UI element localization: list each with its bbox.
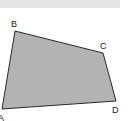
vertex-label-c: C	[100, 41, 107, 51]
vertex-label-d: D	[112, 105, 119, 115]
vertex-label-b: B	[11, 19, 17, 29]
vertex-label-a: A	[0, 113, 4, 121]
quadrilateral-diagram: B C D A	[0, 0, 129, 121]
quadrilateral-abcd	[2, 31, 116, 109]
